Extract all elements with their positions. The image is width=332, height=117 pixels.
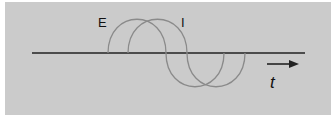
arrow-right-icon bbox=[289, 60, 299, 68]
voltage-label: E bbox=[98, 15, 107, 30]
current-label: I bbox=[181, 15, 185, 30]
time-label: t bbox=[270, 73, 276, 92]
phase-diagram: E I t bbox=[0, 0, 332, 117]
